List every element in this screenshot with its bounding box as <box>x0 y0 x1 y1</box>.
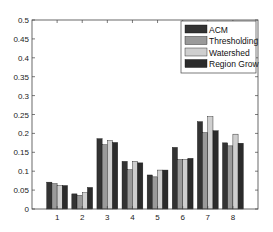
bar-acm-5 <box>147 175 152 209</box>
y-tick-label: 0 <box>25 205 30 214</box>
bar-acm-8 <box>222 143 227 209</box>
bar-watershed-7 <box>208 117 213 209</box>
x-tick-label: 4 <box>130 213 135 222</box>
bar-thresholding-8 <box>228 146 233 209</box>
bar-acm-6 <box>172 147 177 209</box>
legend-swatch-region-grow <box>185 60 207 68</box>
legend-swatch-thresholding <box>185 37 207 45</box>
bar-region-grow-1 <box>62 186 67 209</box>
y-tick-label: 0.5 <box>18 16 30 25</box>
bar-acm-7 <box>197 122 202 209</box>
x-tick-label: 3 <box>105 213 110 222</box>
y-tick-label: 0.45 <box>13 35 29 44</box>
legend-swatch-acm <box>185 25 207 33</box>
y-tick-label: 0.15 <box>13 148 29 157</box>
bar-thresholding-6 <box>177 159 182 209</box>
bar-acm-2 <box>72 194 77 209</box>
x-tick-label: 1 <box>55 213 60 222</box>
bar-region-grow-2 <box>87 187 92 209</box>
x-tick-label: 5 <box>155 213 160 222</box>
bar-thresholding-4 <box>127 170 132 209</box>
y-tick-label: 0.1 <box>18 167 30 176</box>
bar-thresholding-3 <box>102 145 107 209</box>
bar-region-grow-4 <box>138 163 143 209</box>
y-tick-label: 0.05 <box>13 186 29 195</box>
y-tick-label: 0.3 <box>18 92 30 101</box>
y-tick-label: 0.4 <box>18 54 30 63</box>
bar-region-grow-3 <box>113 142 118 209</box>
bar-region-grow-8 <box>238 143 243 209</box>
bar-region-grow-6 <box>188 158 193 209</box>
legend: ACMThresholdingWatershedRegion Grow <box>181 21 259 73</box>
bar-chart: 00.050.10.150.20.250.30.350.40.450.5 123… <box>0 0 273 232</box>
legend-label: ACM <box>209 25 228 35</box>
x-tick-label: 8 <box>231 213 236 222</box>
bar-thresholding-1 <box>52 184 57 209</box>
x-tick-label: 6 <box>180 213 185 222</box>
legend-label: Region Grow <box>209 59 259 69</box>
bar-thresholding-5 <box>152 177 157 209</box>
bar-watershed-4 <box>132 161 137 209</box>
bar-watershed-1 <box>57 186 62 209</box>
bar-region-grow-7 <box>213 131 218 209</box>
legend-swatch-watershed <box>185 48 207 56</box>
bar-acm-1 <box>47 182 52 209</box>
legend-label: Watershed <box>209 48 250 58</box>
bar-watershed-6 <box>183 159 188 209</box>
bar-watershed-3 <box>107 141 112 209</box>
bar-thresholding-2 <box>77 195 82 209</box>
legend-label: Thresholding <box>209 36 258 46</box>
y-tick-label: 0.35 <box>13 73 29 82</box>
y-tick-label: 0.25 <box>13 111 29 120</box>
y-tick-label: 0.2 <box>18 129 30 138</box>
x-tick-label: 7 <box>206 213 211 222</box>
bar-region-grow-5 <box>163 170 168 209</box>
bar-watershed-2 <box>82 193 87 209</box>
bar-watershed-8 <box>233 134 238 209</box>
x-tick-label: 2 <box>80 213 85 222</box>
bar-acm-4 <box>122 161 127 209</box>
bar-thresholding-7 <box>203 133 208 209</box>
bar-watershed-5 <box>158 170 163 209</box>
bar-acm-3 <box>97 139 102 209</box>
